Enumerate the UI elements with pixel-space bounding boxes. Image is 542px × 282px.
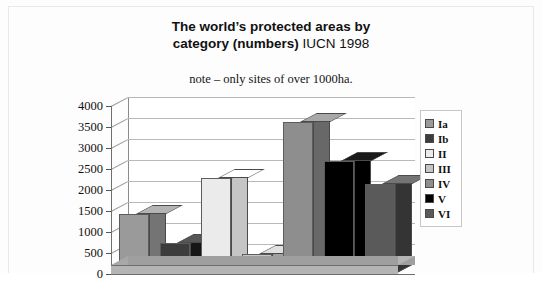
gridline — [128, 118, 415, 119]
chart-subtitle: note – only sites of over 1000ha. — [0, 72, 542, 87]
legend-label: Ia — [438, 118, 448, 130]
legend-label: III — [438, 163, 451, 175]
legend-swatch-icon — [425, 119, 434, 128]
axis-depth-line — [111, 139, 128, 149]
y-axis-line — [111, 106, 112, 274]
legend-label: II — [438, 148, 447, 160]
y-axis-label: 4000 — [57, 99, 103, 114]
y-axis-label: 3500 — [57, 120, 103, 135]
bar-front-face — [283, 122, 313, 274]
legend-swatch-icon — [425, 179, 434, 188]
y-axis-tick — [106, 106, 111, 107]
plot-area: 40003500300025002000150010005000 — [62, 88, 482, 273]
legend-item-v[interactable]: V — [425, 191, 457, 206]
y-axis-tick — [106, 211, 111, 212]
gridline — [128, 139, 415, 140]
legend-swatch-icon — [425, 209, 434, 218]
y-axis-tick — [106, 127, 111, 128]
bar-iv[interactable] — [283, 122, 313, 274]
floor-right-wedge — [398, 256, 415, 265]
legend-label: Ib — [438, 133, 448, 145]
legend-swatch-icon — [425, 134, 434, 143]
axis-depth-line — [111, 97, 128, 107]
axis-depth-line — [111, 202, 128, 212]
gridline — [128, 97, 415, 98]
chart-title-source: IUCN 1998 — [299, 36, 370, 51]
axis-depth-line — [111, 181, 128, 191]
gridline — [128, 181, 415, 182]
floor-front — [111, 265, 398, 274]
legend-item-iii[interactable]: III — [425, 161, 457, 176]
axis-depth-line — [111, 160, 128, 170]
legend-item-ii[interactable]: II — [425, 146, 457, 161]
legend-swatch-icon — [425, 194, 434, 203]
y-axis-label: 500 — [57, 246, 103, 261]
y-axis-label: 3000 — [57, 141, 103, 156]
chart-legend: IaIbIIIIIIVVVI — [420, 110, 462, 227]
y-axis-tick — [106, 190, 111, 191]
axis-depth-line — [111, 118, 128, 128]
legend-label: IV — [438, 178, 450, 190]
chart-title-line2: category (numbers) — [173, 36, 299, 51]
legend-item-iv[interactable]: IV — [425, 176, 457, 191]
floor-top — [128, 256, 415, 265]
legend-item-vi[interactable]: VI — [425, 206, 457, 221]
legend-label: VI — [438, 208, 450, 220]
chart-title-line1: The world’s protected areas by — [172, 19, 370, 34]
legend-swatch-icon — [425, 164, 434, 173]
legend-item-ib[interactable]: Ib — [425, 131, 457, 146]
y-axis-label: 1000 — [57, 225, 103, 240]
chart-title: The world’s protected areas by category … — [0, 18, 542, 52]
legend-item-ia[interactable]: Ia — [425, 116, 457, 131]
y-axis-label: 2500 — [57, 162, 103, 177]
legend-label: V — [438, 193, 446, 205]
y-axis-tick — [106, 169, 111, 170]
y-axis-tick — [106, 253, 111, 254]
y-axis-tick — [106, 148, 111, 149]
floor-left-wedge — [111, 256, 128, 265]
x-axis-line — [111, 274, 415, 275]
y-axis-tick — [106, 232, 111, 233]
y-axis-label: 1500 — [57, 204, 103, 219]
legend-swatch-icon — [425, 149, 434, 158]
y-axis-label: 0 — [57, 267, 103, 282]
y-axis-label: 2000 — [57, 183, 103, 198]
